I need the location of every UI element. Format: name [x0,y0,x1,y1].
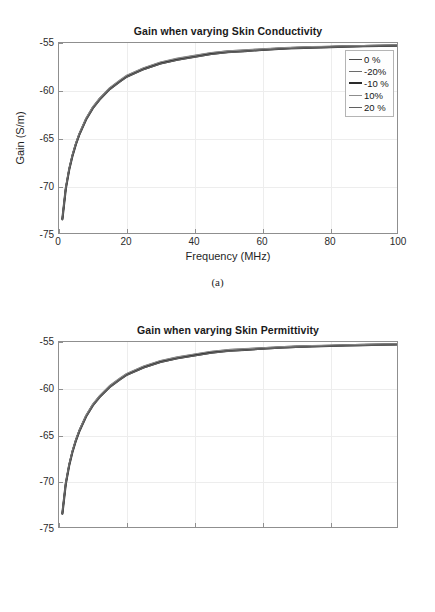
y-tickmark [59,482,63,483]
y-tickmark [59,187,63,188]
figure-panel-b: Gain when varying Skin Permittivity Freq… [0,300,435,612]
legend-swatch-line-icon [349,82,362,84]
x-tick-label: 60 [256,236,267,247]
x-axis-label-a: Frequency (MHz) [58,250,398,262]
x-tickmark [263,523,264,527]
plot-area-b [58,341,398,528]
legend-swatch-line-icon [349,107,362,108]
series-line [62,344,397,513]
series-line [62,344,397,513]
y-tick-label: -75 [24,523,54,534]
x-tickmark [195,523,196,527]
y-tickmark [59,342,63,343]
y-tickmark [59,43,63,44]
y-tick-label: -55 [24,37,54,48]
x-tick-label: 20 [120,236,131,247]
legend-entry[interactable]: 10% [349,89,389,101]
subcaption-a: (a) [0,276,435,288]
chart-title-a: Gain when varying Skin Conductivity [58,25,398,37]
x-tickmark [263,229,264,233]
x-tick-label: 40 [188,236,199,247]
y-tick-label: -70 [24,181,54,192]
x-tickmark [195,229,196,233]
x-tick-label: 0 [55,236,61,247]
legend-label: 20 % [364,102,386,113]
y-tick-label: -75 [24,229,54,240]
series-line [62,345,397,514]
legend-swatch-line-icon [349,95,362,96]
x-tickmark [59,523,60,527]
y-tick-label: -65 [24,133,54,144]
y-tickmark [59,91,63,92]
figure-panel-a: Gain when varying Skin Conductivity Freq… [0,0,435,306]
series-line [62,344,397,513]
y-tickmark [59,389,63,390]
legend-a: 0 %-20%-10 %10%20 % [345,50,394,117]
legend-label: 10% [364,90,383,101]
y-tick-label: -55 [24,336,54,347]
x-tick-label: 100 [390,236,407,247]
plot-box-b [58,341,398,528]
legend-label: 0 % [364,54,380,65]
x-tickmark [331,229,332,233]
legend-label: -10 % [364,78,389,89]
legend-swatch-line-icon [349,71,362,72]
y-tick-label: -60 [24,382,54,393]
x-tickmark [59,229,60,233]
x-tickmark [127,229,128,233]
series-layer-b [59,342,397,527]
y-tick-label: -70 [24,476,54,487]
x-tick-label: 80 [324,236,335,247]
x-tickmark [331,523,332,527]
legend-entry[interactable]: -10 % [349,77,389,89]
legend-entry[interactable]: 0 % [349,53,389,65]
x-tickmark [127,523,128,527]
y-tickmark [59,139,63,140]
y-tickmark [59,436,63,437]
y-tick-label: -65 [24,429,54,440]
chart-title-b: Gain when varying Skin Permittivity [58,324,398,336]
series-line [62,344,397,512]
legend-swatch-line-icon [349,59,362,60]
y-tick-label: -60 [24,85,54,96]
legend-entry[interactable]: 20 % [349,101,389,113]
legend-entry[interactable]: -20% [349,65,389,77]
legend-label: -20% [364,66,386,77]
